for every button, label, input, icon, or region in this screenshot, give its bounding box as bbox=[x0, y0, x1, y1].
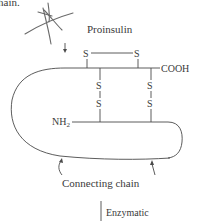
cleavage-arrow-top bbox=[63, 43, 67, 53]
connecting-chain-arrow-right bbox=[150, 160, 155, 175]
b-chain bbox=[72, 122, 182, 158]
connecting-chain-label: Connecting chain bbox=[62, 177, 140, 189]
sulfur-b2: S bbox=[147, 80, 153, 91]
cooh-label: COOH bbox=[161, 63, 189, 74]
sulfur-c2: S bbox=[147, 98, 153, 109]
sulfur-b1: S bbox=[96, 80, 102, 91]
sulfur-a2: S bbox=[134, 48, 140, 59]
sulfur-a1: S bbox=[83, 48, 89, 59]
scribble-marks bbox=[25, 3, 73, 44]
title: Proinsulin bbox=[87, 23, 133, 35]
nh2-label: NH2 bbox=[52, 116, 70, 129]
caption-fragment: hain. bbox=[0, 0, 20, 8]
sulfur-c1: S bbox=[96, 98, 102, 109]
connecting-chain-arrow-left bbox=[59, 158, 63, 175]
enzymatic-label: Enzymatic bbox=[106, 207, 149, 218]
proinsulin-diagram: hain. Proinsulin S S COOH S S S S NH2 bbox=[0, 0, 200, 221]
